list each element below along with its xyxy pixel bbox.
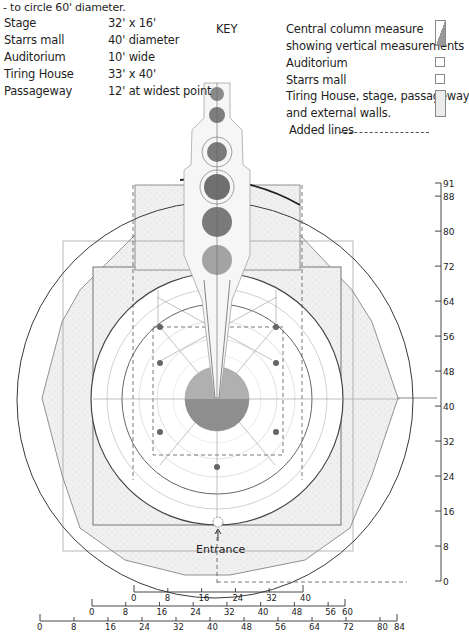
scale-label: 0 xyxy=(131,593,136,603)
scale-label: 64 xyxy=(309,622,320,632)
scale-label: 48 xyxy=(291,607,302,617)
swatch-starrs-mall xyxy=(435,74,445,84)
scale-label: 16 xyxy=(105,622,116,632)
post xyxy=(157,360,163,366)
key-item-central-column: Central column measure xyxy=(286,22,423,36)
vertical-scale-label: 48 xyxy=(443,367,455,377)
vertical-scale-label: 8 xyxy=(443,542,449,552)
key-title: KEY xyxy=(216,22,237,36)
scale-label: 16 xyxy=(156,607,167,617)
scale-label: 80 xyxy=(377,622,388,632)
spec-label-stage: Stage xyxy=(4,16,36,30)
key-item-added-lines: Added lines xyxy=(289,123,354,137)
swatch-tiring-house xyxy=(435,90,446,117)
spec-label-tiring-house: Tiring House xyxy=(4,67,74,81)
swatch-central-column xyxy=(435,20,446,46)
spec-value-stage: 32' x 16' xyxy=(108,16,156,30)
scale-label: 56 xyxy=(325,607,336,617)
post xyxy=(273,429,279,435)
vertical-scale-label: 56 xyxy=(443,332,455,342)
spec-value-tiring-house: 33' x 40' xyxy=(108,67,156,81)
scale-label: 40 xyxy=(207,622,218,632)
post xyxy=(273,360,279,366)
scale-label: 24 xyxy=(139,622,150,632)
vertical-scale-label: 72 xyxy=(443,262,454,272)
scale-label: 32 xyxy=(224,607,235,617)
scale-label: 24 xyxy=(190,607,201,617)
spec-value-passageway: 12' at widest point xyxy=(108,84,211,98)
bottom-scales: 0816243240081624324048566008162432404856… xyxy=(37,585,405,632)
entrance-label: Entrance xyxy=(196,543,246,556)
scale-label: 32 xyxy=(173,622,184,632)
vertical-scale-label: 80 xyxy=(443,227,455,237)
spec-label-starrs-mall: Starrs mall xyxy=(4,33,64,47)
scale-label: 24 xyxy=(232,593,243,603)
scale-label: 8 xyxy=(123,607,128,617)
spec-value-auditorium: 10' wide xyxy=(108,50,155,64)
scale-label: 40 xyxy=(300,593,311,603)
scale-label: 72 xyxy=(343,622,354,632)
vertical-scale-label: 40 xyxy=(443,402,455,412)
scale-label: 40 xyxy=(258,607,269,617)
key-item-tiring-house-cont: and external walls. xyxy=(286,106,391,120)
scale-label: 60 xyxy=(342,607,353,617)
scale-label: 8 xyxy=(165,593,170,603)
spec-label-auditorium: Auditorium xyxy=(4,50,66,64)
spec-label-passageway: Passageway xyxy=(4,84,72,98)
swatch-auditorium xyxy=(435,57,445,67)
scale-label: 0 xyxy=(37,622,42,632)
post xyxy=(214,464,220,470)
spec-value-starrs-mall: 40' diameter xyxy=(108,33,179,47)
vertical-scale-label: 88 xyxy=(443,192,455,202)
entrance-marker xyxy=(213,517,223,527)
scale-label: 48 xyxy=(241,622,252,632)
key-item-starrs-mall: Starrs mall xyxy=(286,73,346,87)
scale-label: 32 xyxy=(266,593,277,603)
scale-label: 0 xyxy=(89,607,94,617)
vertical-scale-label: 64 xyxy=(443,297,455,307)
scale-label: 56 xyxy=(275,622,286,632)
vertical-scale-label: 32 xyxy=(443,437,454,447)
scale-label: 8 xyxy=(71,622,76,632)
vertical-scale-label: 91 xyxy=(443,179,454,189)
key-item-auditorium: Auditorium xyxy=(286,56,348,70)
swatch-dashed-line xyxy=(339,132,429,133)
vertical-scale-label: 0 xyxy=(443,577,449,587)
vertical-scale: 918880726456484032241680 xyxy=(435,179,455,587)
vertical-scale-label: 16 xyxy=(443,507,455,517)
post xyxy=(157,324,163,330)
scale-label: 16 xyxy=(199,593,210,603)
post xyxy=(157,429,163,435)
vertical-scale-label: 24 xyxy=(443,472,455,482)
scale-label: 84 xyxy=(394,622,405,632)
intro-note: - to circle 60' diameter. xyxy=(3,1,126,14)
post xyxy=(273,324,279,330)
